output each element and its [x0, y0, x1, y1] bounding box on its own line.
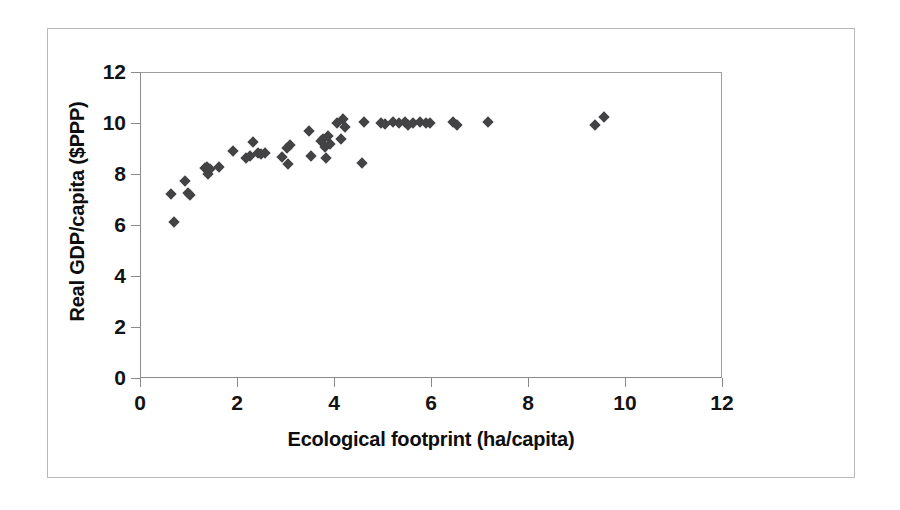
y-axis-tick — [131, 72, 140, 73]
data-point — [227, 145, 238, 156]
scatter-chart: 12 10 8 6 4 2 0 0 2 4 6 8 10 12 Ecologic… — [0, 0, 900, 510]
y-tick-label-0: 0 — [86, 367, 126, 388]
y-axis-tick — [131, 276, 140, 277]
x-tick-label-10: 10 — [595, 392, 655, 413]
x-axis-tick — [140, 378, 141, 387]
y-tick-label-4: 4 — [86, 265, 126, 286]
data-point — [357, 157, 368, 168]
data-point — [590, 120, 601, 131]
data-point — [180, 176, 191, 187]
x-axis-tick — [431, 378, 432, 387]
x-axis-tick — [625, 378, 626, 387]
y-axis-title: Real GDP/capita ($PPP) — [66, 47, 89, 377]
x-tick-label-12: 12 — [692, 392, 752, 413]
y-tick-label-10: 10 — [86, 112, 126, 133]
y-axis-tick — [131, 225, 140, 226]
data-point — [598, 111, 609, 122]
data-point — [320, 152, 331, 163]
x-tick-label-0: 0 — [110, 392, 170, 413]
x-axis-tick — [528, 378, 529, 387]
data-point — [335, 133, 346, 144]
data-point — [168, 216, 179, 227]
data-point — [482, 116, 493, 127]
y-axis-tick — [131, 378, 140, 379]
data-point — [359, 116, 370, 127]
y-axis-tick — [131, 123, 140, 124]
y-tick-label-8: 8 — [86, 163, 126, 184]
data-point — [185, 189, 196, 200]
data-points-layer — [141, 73, 721, 377]
y-tick-label-2: 2 — [86, 316, 126, 337]
x-axis-tick — [334, 378, 335, 387]
y-tick-label-6: 6 — [86, 214, 126, 235]
x-tick-label-6: 6 — [401, 392, 461, 413]
x-tick-label-2: 2 — [207, 392, 267, 413]
plot-area — [140, 72, 722, 378]
y-axis-tick — [131, 327, 140, 328]
data-point — [305, 150, 316, 161]
data-point — [165, 188, 176, 199]
data-point — [304, 125, 315, 136]
x-tick-label-4: 4 — [304, 392, 364, 413]
x-axis-tick — [722, 378, 723, 387]
x-axis-tick — [237, 378, 238, 387]
y-axis-tick — [131, 174, 140, 175]
y-tick-label-12: 12 — [86, 61, 126, 82]
x-tick-label-8: 8 — [498, 392, 558, 413]
data-point — [214, 161, 225, 172]
x-axis-title: Ecological footprint (ha/capita) — [140, 428, 722, 451]
